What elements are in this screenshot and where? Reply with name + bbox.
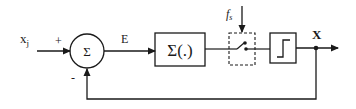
block-diagram: xj + Σ - E Σ(.) fs X	[0, 0, 356, 109]
feedback-path	[87, 48, 316, 99]
sigma-symbol: Σ	[83, 44, 91, 59]
quantizer-block	[270, 33, 296, 63]
clock-label: fs	[226, 7, 232, 22]
input-signal: xj +	[20, 31, 70, 51]
output-signal: X	[296, 27, 338, 50]
error-label: E	[121, 32, 128, 46]
sampler-switch: fs	[226, 6, 270, 65]
minus-sign: -	[71, 71, 75, 85]
step-function-icon	[277, 40, 290, 57]
switch-blade	[237, 43, 244, 49]
plus-sign: +	[55, 34, 62, 48]
input-label: xj	[20, 31, 29, 48]
accumulator-label: Σ(.)	[167, 41, 192, 60]
output-label: X	[312, 27, 322, 42]
error-signal: E	[104, 32, 155, 51]
accumulator-block: Σ(.)	[155, 33, 205, 66]
